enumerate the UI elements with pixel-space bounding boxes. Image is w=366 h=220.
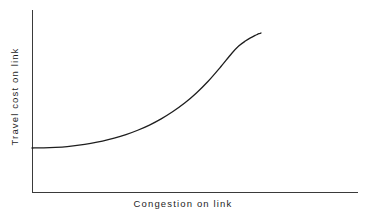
congestion-cost-curve <box>32 33 261 148</box>
chart-figure: ........ ...... .. ........ Travel cost … <box>0 0 366 220</box>
x-axis-label: Congestion on link <box>0 198 366 209</box>
y-axis-label: Travel cost on link <box>9 47 20 145</box>
plot-area <box>0 0 366 220</box>
y-axis-label-container: Travel cost on link <box>0 0 28 192</box>
